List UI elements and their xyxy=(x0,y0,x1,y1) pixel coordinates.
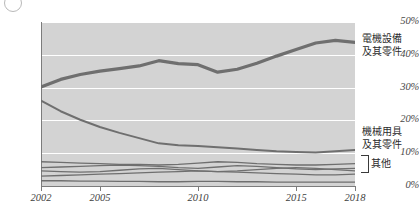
x-tick xyxy=(355,186,356,191)
series-label-electrical-line1: 電機設備 xyxy=(362,32,402,45)
series-line xyxy=(41,162,355,165)
series-label-electrical-line2: 及其零件 xyxy=(362,45,402,58)
x-tick-label: 2005 xyxy=(89,192,110,203)
x-tick-label: 2002 xyxy=(31,192,52,203)
series-line xyxy=(41,101,355,153)
corner-mark-icon xyxy=(4,0,22,12)
series-label-machinery-line1: 機械用具 xyxy=(362,125,402,138)
y-tick-label: 0% xyxy=(383,179,419,190)
x-tick xyxy=(41,186,42,191)
y-tick-label: 20% xyxy=(383,113,419,124)
x-tick xyxy=(100,186,101,191)
series-label-machinery-line2: 及其零件 xyxy=(362,138,402,151)
y-tick-label: 30% xyxy=(383,81,419,92)
series-label-electrical: 電機設備 及其零件 xyxy=(362,32,402,58)
x-tick-label: 2015 xyxy=(286,192,307,203)
series-line xyxy=(41,181,355,182)
x-tick-label: 2010 xyxy=(188,192,209,203)
series-line xyxy=(41,40,355,87)
others-brace-icon xyxy=(361,155,369,173)
series-label-others: 其他 xyxy=(371,157,391,170)
series-label-machinery: 機械用具 及其零件 xyxy=(362,125,402,151)
x-tick-label: 2018 xyxy=(345,192,366,203)
y-tick-label: 50% xyxy=(383,15,419,26)
x-tick xyxy=(296,186,297,191)
series-line xyxy=(41,165,355,170)
x-tick xyxy=(198,186,199,191)
line-chart-figure: 0%10%20%30%40%50% 20022005201020152018 電… xyxy=(0,0,419,217)
data-series-lines xyxy=(41,22,355,186)
